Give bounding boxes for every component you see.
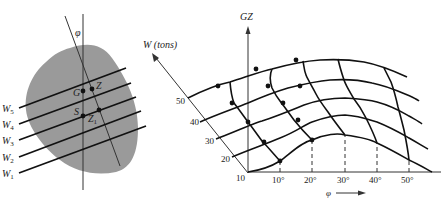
curve-w50 [188,60,407,98]
label-s: S [74,106,79,117]
svg-text:50°: 50° [401,175,414,185]
phi-tick-labels: 10° 20° 30° 40° 50° [272,175,414,185]
label-g: G [73,87,80,98]
hull-section-shape [26,45,138,174]
w-tick-labels: 10 20 30 40 50 [176,96,246,183]
svg-text:30: 30 [205,136,215,146]
svg-text:W2: W2 [2,152,14,165]
gz-axis-arrowhead [246,26,251,34]
phi-label: φ [75,27,81,38]
svg-text:20: 20 [221,154,231,164]
ship-cross-section: φ W5 W4 W3 W2 W1 G Z S Z1 [2,14,146,190]
svg-text:W4: W4 [2,119,14,132]
svg-text:10°: 10° [272,175,285,185]
svg-text:W3: W3 [2,135,14,148]
svg-text:40°: 40° [369,175,382,185]
point-z [90,87,95,92]
svg-text:20°: 20° [304,175,317,185]
w-axis-label: W (tons) [143,39,178,51]
point-z1 [97,108,102,113]
svg-text:10: 10 [236,173,246,183]
gz-axis-label: GZ [240,11,253,22]
point-g [81,89,86,94]
svg-text:W5: W5 [2,103,14,116]
phi-dashed-lines [280,135,409,172]
diagram-canvas: φ W5 W4 W3 W2 W1 G Z S Z1 GZ [0,0,443,200]
svg-text:30°: 30° [337,175,350,185]
cross-curves-chart: GZ W (tons) 10 20 30 40 50 10° 20° 30° [143,11,441,198]
svg-text:50: 50 [176,96,186,106]
point-s [81,114,86,119]
svg-text:40: 40 [190,117,200,127]
phi-axis-label: φ [326,188,331,198]
phi-axis-arrowhead [358,191,366,196]
label-z: Z [96,80,102,91]
svg-text:W1: W1 [2,168,14,181]
waterline-labels: W5 W4 W3 W2 W1 [2,103,14,181]
